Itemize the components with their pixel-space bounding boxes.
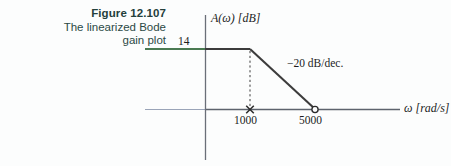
x-tick-label-1000: 1000 [234, 114, 257, 126]
x-axis-label: ω [rad/s] [404, 101, 450, 116]
x-axis-label-text: ω [rad/s] [404, 101, 450, 115]
slope-annotation-label: −20 dB/dec. [287, 57, 343, 69]
zero-marker-circle [312, 106, 318, 112]
x-tick-label-5000: 5000 [299, 114, 322, 126]
bode-gain-figure: Figure 12.107 The linearized Bode gain p… [0, 0, 451, 166]
y-axis-label-text: A(ω) [dB] [211, 11, 260, 25]
plateau-value-label: 14 [178, 35, 190, 47]
y-axis-label: A(ω) [dB] [211, 11, 260, 26]
